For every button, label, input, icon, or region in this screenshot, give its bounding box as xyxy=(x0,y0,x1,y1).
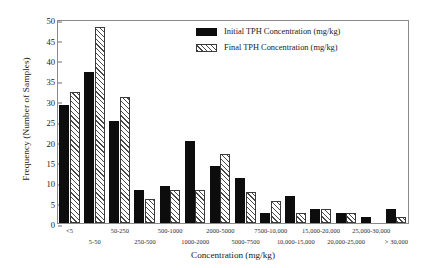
bar-group xyxy=(58,21,83,223)
bar-final xyxy=(246,192,256,223)
x-tick-label: 10,000-15,000 xyxy=(277,238,315,245)
x-tick-label: 20,000-25,000 xyxy=(327,238,365,245)
x-tick-label: 500-1000 xyxy=(158,227,183,234)
bar-final xyxy=(95,27,105,223)
bar-final xyxy=(220,154,230,223)
bar-final xyxy=(321,209,331,223)
y-tick-label: 15 xyxy=(46,160,58,169)
x-tick-label: <5 xyxy=(66,227,73,234)
legend-item-final: Final TPH Concentration (mg/kg) xyxy=(196,43,340,52)
chart-legend: Initial TPH Concentration (mg/kg) Final … xyxy=(196,27,340,52)
x-tick-label: 2000-5000 xyxy=(206,227,234,234)
bar-initial xyxy=(336,213,346,223)
y-tick-label: 40 xyxy=(46,58,58,67)
bar-final xyxy=(396,217,406,223)
legend-label-final: Final TPH Concentration (mg/kg) xyxy=(224,43,338,52)
bar-group xyxy=(108,21,133,223)
bar-initial xyxy=(260,213,270,223)
hatched-swatch-icon xyxy=(196,44,217,52)
y-tick-label: 35 xyxy=(46,78,58,87)
y-tick-45: 45 xyxy=(46,36,58,47)
bar-final xyxy=(271,201,281,223)
bar-initial xyxy=(361,217,371,223)
y-tick-label: 0 xyxy=(51,221,58,230)
y-tick-label: 5 xyxy=(51,200,58,209)
chart-figure: Frequency (Number of Samples) 0510152025… xyxy=(0,0,431,268)
x-tick-label: 1000-2000 xyxy=(181,238,209,245)
bar-final xyxy=(120,97,130,223)
y-tick-35: 35 xyxy=(46,77,58,88)
legend-label-initial: Initial TPH Concentration (mg/kg) xyxy=(224,27,340,36)
x-tick-label: 15,000-20,000 xyxy=(302,227,340,234)
y-tick-label: 50 xyxy=(46,17,58,26)
y-tick-label: 20 xyxy=(46,139,58,148)
x-tick-label: 5000-7500 xyxy=(231,238,259,245)
x-axis-title: Concentration (mg/kg) xyxy=(57,250,409,260)
bar-group xyxy=(360,21,385,223)
x-tick-label: 5-50 xyxy=(89,238,101,245)
y-tick-label: 10 xyxy=(46,180,58,189)
bar-initial xyxy=(84,72,94,223)
y-tick-20: 20 xyxy=(46,138,58,149)
bar-final xyxy=(296,213,306,223)
bar-final xyxy=(346,213,356,223)
y-tick-label: 30 xyxy=(46,98,58,107)
y-tick-10: 10 xyxy=(46,179,58,190)
x-tick-label: 50-250 xyxy=(111,227,129,234)
y-tick-5: 5 xyxy=(51,199,58,210)
bar-final xyxy=(70,92,80,223)
y-tick-label: 25 xyxy=(46,119,58,128)
legend-item-initial: Initial TPH Concentration (mg/kg) xyxy=(196,27,340,36)
bar-initial xyxy=(160,186,170,223)
y-tick-0: 0 xyxy=(51,220,58,231)
bar-group xyxy=(133,21,158,223)
bar-initial xyxy=(285,196,295,223)
bar-initial xyxy=(310,209,320,223)
bar-initial xyxy=(235,178,245,223)
y-tick-label: 45 xyxy=(46,37,58,46)
y-tick-15: 15 xyxy=(46,158,58,169)
y-tick-50: 50 xyxy=(46,16,58,27)
bar-initial xyxy=(185,141,195,223)
bar-group xyxy=(385,21,410,223)
bar-group xyxy=(159,21,184,223)
bar-initial xyxy=(109,121,119,223)
x-tick-label: > 30,000 xyxy=(385,238,408,245)
y-tick-mark xyxy=(58,225,62,226)
bar-final xyxy=(170,190,180,223)
bar-initial xyxy=(386,209,396,223)
bar-group xyxy=(83,21,108,223)
x-tick-label: 7500-10,000 xyxy=(254,227,287,234)
x-tick-label: 25,000-30,000 xyxy=(352,227,390,234)
bar-initial xyxy=(59,105,69,223)
bar-final xyxy=(145,199,155,223)
x-tick-label: 250-500 xyxy=(134,238,156,245)
y-tick-40: 40 xyxy=(46,56,58,67)
y-tick-30: 30 xyxy=(46,97,58,108)
y-tick-25: 25 xyxy=(46,118,58,129)
bar-initial xyxy=(210,166,220,223)
bar-final xyxy=(195,190,205,223)
bar-initial xyxy=(134,190,144,223)
y-axis-title: Frequency (Number of Samples) xyxy=(21,19,31,219)
solid-black-swatch-icon xyxy=(196,28,217,36)
